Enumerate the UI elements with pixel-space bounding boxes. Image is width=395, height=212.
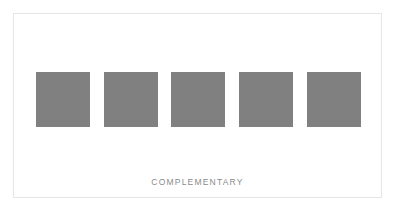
palette-name: COMPLEMENTARY xyxy=(14,177,381,187)
color-swatch-5[interactable] xyxy=(307,72,361,127)
palette-card: COMPLEMENTARY xyxy=(13,13,382,198)
color-swatch-2[interactable] xyxy=(104,72,158,127)
color-swatch-3[interactable] xyxy=(171,72,225,127)
color-swatch-4[interactable] xyxy=(239,72,293,127)
color-swatch-1[interactable] xyxy=(36,72,90,127)
